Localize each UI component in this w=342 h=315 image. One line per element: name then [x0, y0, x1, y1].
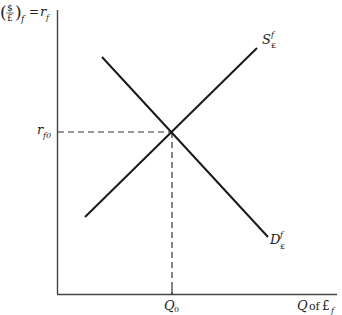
svg-text:f: f: [330, 306, 336, 315]
svg-text:f0: f0: [42, 131, 51, 140]
equilibrium-price-label: r f0: [37, 122, 51, 140]
svg-text:f: f: [270, 30, 276, 39]
svg-text:£: £: [322, 299, 330, 313]
svg-text:£: £: [7, 13, 13, 23]
svg-text:$: $: [7, 3, 13, 13]
svg-text:£: £: [271, 41, 276, 50]
svg-text:f: f: [45, 13, 51, 22]
svg-text:£: £: [280, 242, 285, 251]
svg-text:0: 0: [174, 305, 179, 314]
supply-label: S f £: [262, 30, 276, 50]
svg-text:Q: Q: [297, 298, 308, 313]
y-axis-label: ( $ £ ) f = r f: [0, 2, 51, 24]
supply-demand-diagram: ( $ £ ) f = r f r f0 Q 0 Q of £ f S f £ …: [0, 0, 342, 315]
svg-text:of: of: [309, 300, 321, 313]
svg-text:S: S: [262, 32, 271, 47]
x-axis-label: Q of £ f: [297, 298, 336, 315]
equilibrium-quantity-label: Q 0: [164, 298, 179, 314]
svg-text:f: f: [279, 230, 285, 239]
svg-text:=: =: [29, 5, 39, 19]
svg-text:(: (: [0, 2, 7, 22]
demand-curve: [102, 57, 268, 237]
demand-label: D f £: [269, 230, 285, 251]
svg-text:f: f: [20, 14, 26, 24]
